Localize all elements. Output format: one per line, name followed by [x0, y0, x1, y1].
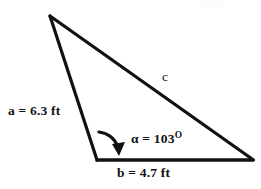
side-b-label: b = 4.7 ft	[117, 166, 170, 180]
side-c-label: c	[162, 70, 168, 84]
angle-alpha-label: α = 103O	[131, 132, 182, 146]
top-edge-mark	[201, 0, 223, 7]
triangle-figure: a = 6.3 ft c α = 103O b = 4.7 ft	[0, 0, 261, 189]
side-a-label: a = 6.3 ft	[8, 104, 60, 118]
triangle-drawing	[0, 0, 261, 189]
angle-alpha-text: α = 103	[131, 131, 175, 146]
degree-symbol-icon: O	[175, 130, 183, 140]
